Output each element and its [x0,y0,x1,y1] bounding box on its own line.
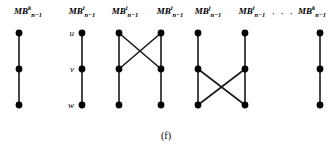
graph-vertex [195,30,202,37]
graph-vertex [158,30,165,37]
graph-vertex [16,102,23,109]
graph-vertex [79,102,86,109]
graph-vertex [242,66,249,73]
graph-vertex [116,30,123,37]
figure-caption: (f) [161,130,171,141]
graph-vertex [116,102,123,109]
vertices-group [16,30,324,109]
graph-vertex [158,66,165,73]
graph-vertex [242,102,249,109]
graph-vertex [242,30,249,37]
figure-container: MBkn−1 MBin−1 MBin−1 MBin−1 MBjn−1 MBin−… [0,0,331,149]
graph-vertex [16,30,23,37]
graph-vertex [79,66,86,73]
graph-vertex [317,30,324,37]
graph-vertex [317,102,324,109]
graph-vertex [16,66,23,73]
graph-vertex [116,66,123,73]
graph-vertex [195,102,202,109]
graph-vertex [195,66,202,73]
graph-drawing [0,0,331,149]
graph-vertex [317,66,324,73]
edges-group [19,33,320,105]
graph-vertex [158,102,165,109]
graph-vertex [79,30,86,37]
